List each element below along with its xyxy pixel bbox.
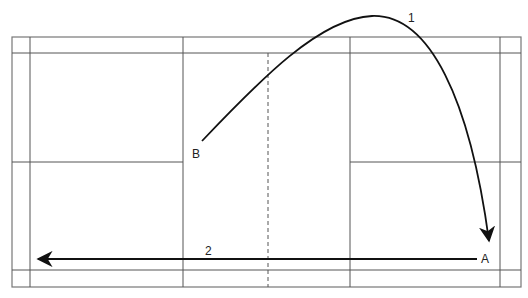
label-shot-2: 2	[205, 244, 212, 258]
label-shot-1: 1	[408, 11, 415, 25]
label-point-b: B	[192, 147, 200, 161]
diagram-labels: B A 1 2	[192, 11, 489, 266]
label-point-a: A	[481, 252, 489, 266]
court-diagram: B A 1 2	[0, 0, 528, 298]
shot-paths	[38, 16, 489, 259]
shot-1-curve-arrow	[202, 16, 489, 241]
